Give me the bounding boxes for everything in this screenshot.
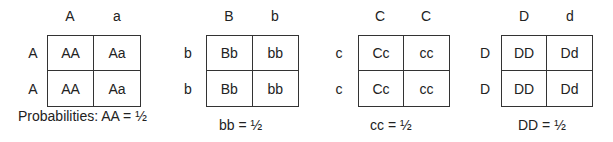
genotype-cell: bb: [253, 71, 299, 106]
genotype-cell: Cc: [359, 71, 404, 106]
punnett-grid: AA Aa AA Aa: [47, 35, 141, 107]
probability-caption: DD = ½: [518, 117, 566, 133]
probability-caption: cc = ½: [370, 117, 412, 133]
row-allele-1: b: [180, 45, 196, 61]
genotype-cell: AA: [48, 36, 94, 71]
genotype-cell: cc: [404, 71, 449, 106]
punnett-grid: Cc cc Cc cc: [358, 35, 450, 107]
row-allele-1: D: [477, 45, 493, 61]
genotype-cell: cc: [404, 36, 449, 71]
row-allele-2: b: [180, 81, 196, 97]
column-allele-1: D: [501, 8, 547, 24]
genotype-cell: Bb: [207, 71, 253, 106]
punnett-grid: DD Dd DD Dd: [501, 35, 593, 107]
genotype-cell: DD: [502, 36, 547, 71]
genotype-cell: Cc: [359, 36, 404, 71]
row-allele-2: c: [331, 81, 347, 97]
probability-caption: bb = ½: [219, 117, 262, 133]
row-allele-2: A: [25, 81, 41, 97]
genotype-cell: bb: [253, 36, 299, 71]
row-allele-1: A: [25, 45, 41, 61]
column-allele-2: C: [403, 8, 449, 24]
probability-caption: Probabilities: AA = ½: [18, 108, 147, 124]
genotype-cell: Aa: [94, 71, 140, 106]
column-allele-2: a: [94, 8, 140, 24]
genotype-cell: Bb: [207, 36, 253, 71]
column-allele-1: A: [47, 8, 93, 24]
punnett-grid: Bb bb Bb bb: [206, 35, 299, 107]
genotype-cell: AA: [48, 71, 94, 106]
column-allele-1: C: [357, 8, 403, 24]
column-allele-2: d: [547, 8, 593, 24]
genotype-cell: DD: [502, 71, 547, 106]
genotype-cell: Aa: [94, 36, 140, 71]
row-allele-1: c: [331, 45, 347, 61]
row-allele-2: D: [477, 81, 493, 97]
genotype-cell: Dd: [547, 36, 592, 71]
column-allele-2: b: [252, 8, 298, 24]
genotype-cell: Dd: [547, 71, 592, 106]
column-allele-1: B: [206, 8, 252, 24]
